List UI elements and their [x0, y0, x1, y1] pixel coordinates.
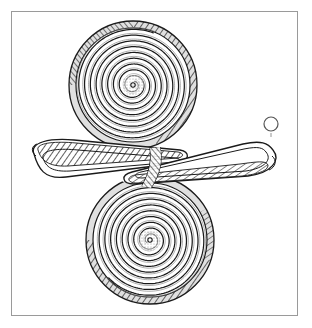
lower-coil-centre: [139, 229, 161, 251]
upper-coil-centre: [122, 74, 144, 96]
upper-spiral-disc: [69, 21, 197, 149]
connecting-bow: [32, 140, 275, 188]
screenshot-root: [0, 0, 312, 328]
lower-spiral-disc: [86, 176, 214, 304]
wire-cross-section-circle: [264, 117, 278, 131]
fibula-drawing: [0, 0, 312, 328]
